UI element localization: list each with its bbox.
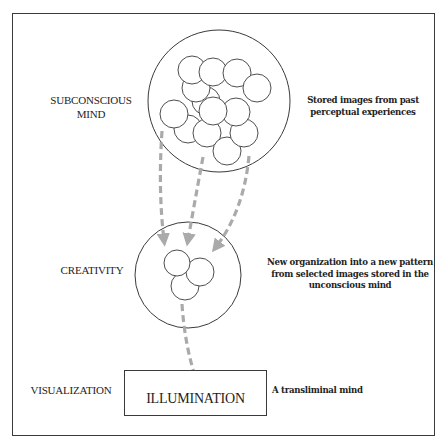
stored-images-caption-line1: Stored images from past xyxy=(293,95,433,107)
subconscious-label-line1: SUBCONSCIOUS xyxy=(38,93,144,107)
illumination-box: ILLUMINATION xyxy=(124,370,267,416)
transliminal-caption: A transliminal mind xyxy=(272,385,382,397)
stored-images-caption-line2: perceptual experiences xyxy=(293,107,433,119)
new-organization-caption-line1: New organization into a new pattern xyxy=(260,257,440,269)
visualization-label-text: VISUALIZATION xyxy=(30,384,111,396)
visualization-label: VISUALIZATION xyxy=(22,383,120,397)
new-organization-caption: New organization into a new pattern from… xyxy=(260,257,440,292)
creativity-label-text: CREATIVITY xyxy=(61,264,124,276)
stored-images-caption: Stored images from past perceptual exper… xyxy=(293,95,433,118)
arrow-1 xyxy=(160,131,164,240)
subconscious-label: SUBCONSCIOUS MIND xyxy=(38,93,144,121)
transliminal-caption-text: A transliminal mind xyxy=(272,385,363,395)
illumination-label: ILLUMINATION xyxy=(146,391,245,407)
creativity-label: CREATIVITY xyxy=(52,263,132,277)
new-organization-caption-line2: from selected images stored in the xyxy=(260,269,440,281)
subconscious-label-line2: MIND xyxy=(38,107,144,121)
new-organization-caption-line3: unconscious mind xyxy=(260,280,440,292)
